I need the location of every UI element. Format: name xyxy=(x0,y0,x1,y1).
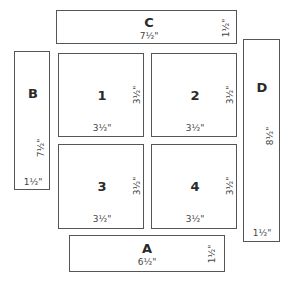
piece-b-label: B xyxy=(28,86,38,101)
piece-b: B 7½" 1½" xyxy=(14,51,50,190)
block-3-label: 3 xyxy=(97,179,106,194)
block-3-width: 3½" xyxy=(93,214,112,224)
block-1: 1 3½" 3½" xyxy=(58,53,144,137)
block-4: 4 3½" 3½" xyxy=(151,144,237,229)
piece-c-width: 7½" xyxy=(140,31,159,41)
piece-d-width: 1½" xyxy=(253,228,272,238)
block-2-height: 3½" xyxy=(225,86,235,105)
block-2: 2 3½" 3½" xyxy=(151,53,237,137)
block-3-height: 3½" xyxy=(132,177,142,196)
piece-d-label: D xyxy=(257,80,268,95)
piece-a-height: 1½" xyxy=(207,245,217,264)
block-1-label: 1 xyxy=(97,88,106,103)
piece-c-label: C xyxy=(144,15,154,30)
piece-b-width: 1½" xyxy=(24,177,43,187)
piece-a-label: A xyxy=(142,241,152,256)
piece-d-height: 8½" xyxy=(265,127,275,146)
piece-c: C 7½" 1½" xyxy=(56,10,237,44)
piece-c-height: 1½" xyxy=(221,19,231,38)
block-3: 3 3½" 3½" xyxy=(58,144,144,229)
block-1-width: 3½" xyxy=(93,123,112,133)
block-1-height: 3½" xyxy=(132,86,142,105)
block-2-width: 3½" xyxy=(186,123,205,133)
block-4-label: 4 xyxy=(190,179,199,194)
piece-d: D 8½" 1½" xyxy=(243,39,280,242)
block-4-width: 3½" xyxy=(186,214,205,224)
block-2-label: 2 xyxy=(190,88,199,103)
block-4-height: 3½" xyxy=(225,177,235,196)
piece-b-height: 7½" xyxy=(36,139,46,158)
piece-a: A 6½" 1½" xyxy=(69,235,225,272)
piece-a-width: 6½" xyxy=(138,257,157,267)
